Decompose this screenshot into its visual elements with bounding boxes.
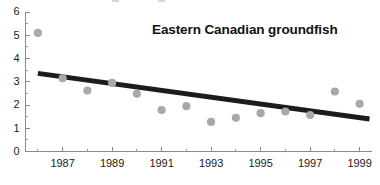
data-point-1987 (59, 74, 67, 82)
data-point-1991 (158, 106, 166, 114)
trend-line-group (38, 73, 370, 119)
data-point-1989 (108, 79, 116, 87)
data-point-1993 (207, 118, 215, 126)
y-axis-label-3: 3 (13, 75, 19, 87)
data-point-1986 (34, 29, 42, 37)
data-point-1995 (257, 109, 265, 117)
y-axis-label-6: 6 (13, 5, 19, 17)
data-point-1996 (281, 107, 289, 115)
y-axis-tick-labels: 0123456 (13, 5, 19, 157)
y-axis-label-5: 5 (13, 29, 19, 41)
data-point-1994 (232, 114, 240, 122)
data-point-1998 (331, 87, 339, 95)
y-axis-label-1: 1 (13, 122, 19, 134)
x-axis-label-1991: 1991 (149, 157, 173, 169)
x-axis-label-1989: 1989 (100, 157, 124, 169)
data-point-1988 (83, 86, 91, 94)
trend-line (38, 73, 370, 119)
data-point-1990 (133, 90, 141, 98)
data-point-1997 (306, 111, 314, 119)
chart-figure: 0123456 1987198919911993199519971999 Eas… (0, 0, 380, 185)
data-point-1999 (356, 100, 364, 108)
x-axis-label-1995: 1995 (248, 157, 272, 169)
x-axis-label-1999: 1999 (347, 157, 371, 169)
chart-title: Eastern Canadian groundfish (152, 22, 376, 37)
y-axis-label-2: 2 (13, 98, 19, 110)
x-axis-label-1997: 1997 (298, 157, 322, 169)
data-point-1992 (182, 102, 190, 110)
y-axis-label-0: 0 (13, 145, 19, 157)
x-axis-tick-labels: 1987198919911993199519971999 (50, 157, 371, 169)
x-axis-label-1993: 1993 (199, 157, 223, 169)
x-axis-label-1987: 1987 (50, 157, 74, 169)
y-axis-label-4: 4 (13, 52, 19, 64)
